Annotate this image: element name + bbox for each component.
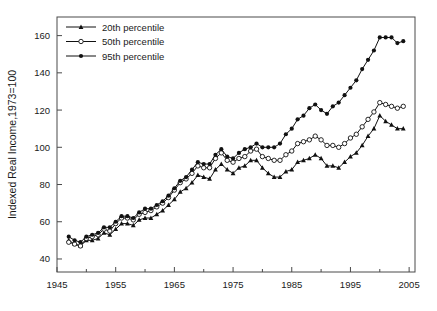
data-point [178,179,182,183]
data-point [389,122,394,127]
data-point [166,194,170,198]
data-point [354,78,358,82]
data-point [231,156,235,160]
data-point [389,35,393,39]
chart-figure: 20th percentile50th percentile95th perce… [0,0,437,311]
line-chart: 20th percentile50th percentile95th perce… [0,0,437,311]
data-point [108,229,112,233]
legend-entry-label: 20th percentile [102,22,164,33]
data-point [207,166,211,170]
data-point [108,225,112,229]
x-tick-label: 1955 [105,279,126,290]
data-point [337,145,341,149]
data-point [290,149,294,153]
data-point [243,154,247,158]
x-tick-label: 1985 [281,279,302,290]
data-point [225,154,229,158]
data-point [272,145,276,149]
data-point [78,244,82,248]
data-point [342,93,346,97]
data-point [178,189,183,194]
data-point [219,161,224,166]
data-point [395,106,399,110]
y-tick-label: 40 [39,253,50,264]
x-tick-label: 1945 [46,279,67,290]
data-point [313,102,317,106]
data-point [383,102,387,106]
data-point [172,186,176,190]
data-point [202,166,206,170]
data-point [313,152,318,157]
data-point [155,203,159,207]
data-point [219,147,223,151]
data-point [319,156,324,161]
data-point [248,149,252,153]
legend-entry-2: 50th percentile [66,36,164,47]
data-point [102,225,106,229]
data-point [372,110,376,114]
data-point [237,156,241,160]
data-point [272,158,276,162]
data-point [254,147,258,151]
data-point [72,242,76,246]
data-point [348,86,352,90]
data-point [137,210,141,214]
legend-entry-1: 20th percentile [66,22,164,33]
x-tick-label: 1995 [340,279,361,290]
y-tick-label: 80 [39,179,50,190]
data-point [119,214,123,218]
series-line-2 [69,103,404,246]
data-point [377,113,382,118]
data-point [243,147,247,151]
data-point [295,141,299,145]
series-2 [67,100,406,248]
data-point [96,231,100,235]
data-point [125,214,129,218]
chart-legend: 20th percentile50th percentile95th perce… [66,22,164,62]
x-tick-label: 2005 [399,279,420,290]
data-point [154,212,159,217]
data-point [195,173,200,178]
y-tick-label: 120 [34,105,50,116]
data-point [143,207,147,211]
data-point [207,162,211,166]
data-point [348,136,352,140]
data-point [161,199,165,203]
data-point [395,41,399,45]
data-point [331,104,335,108]
data-point [73,238,77,242]
data-point [348,154,353,159]
data-point [284,132,288,136]
data-point [337,101,341,105]
y-tick-label: 140 [34,67,50,78]
data-point [266,156,270,160]
data-point [249,145,253,149]
chart-labels: 4060801001201401601945195519651975198519… [6,30,420,290]
data-point [260,145,264,149]
data-point [78,240,82,244]
data-point [354,132,358,136]
data-point [149,207,153,211]
data-point [231,160,235,164]
y-axis-title: Indexed Real Income,1973=100 [6,70,18,219]
data-point [319,108,323,112]
data-point [296,117,300,121]
data-point [67,240,71,244]
data-point [190,168,194,172]
series-line-3 [69,37,404,242]
data-point [301,114,305,118]
chart-series [66,35,405,248]
legend-entry-label: 95th percentile [102,51,164,62]
data-point [278,141,282,145]
data-point [342,141,346,145]
data-point [366,58,370,62]
data-point [254,141,258,145]
data-point [378,100,382,104]
data-point [313,134,317,138]
data-point [184,175,188,179]
legend-entry-3: 95th percentile [66,51,164,62]
data-point [307,156,312,161]
data-point [196,160,200,164]
data-point [325,112,329,116]
data-point [213,153,217,157]
